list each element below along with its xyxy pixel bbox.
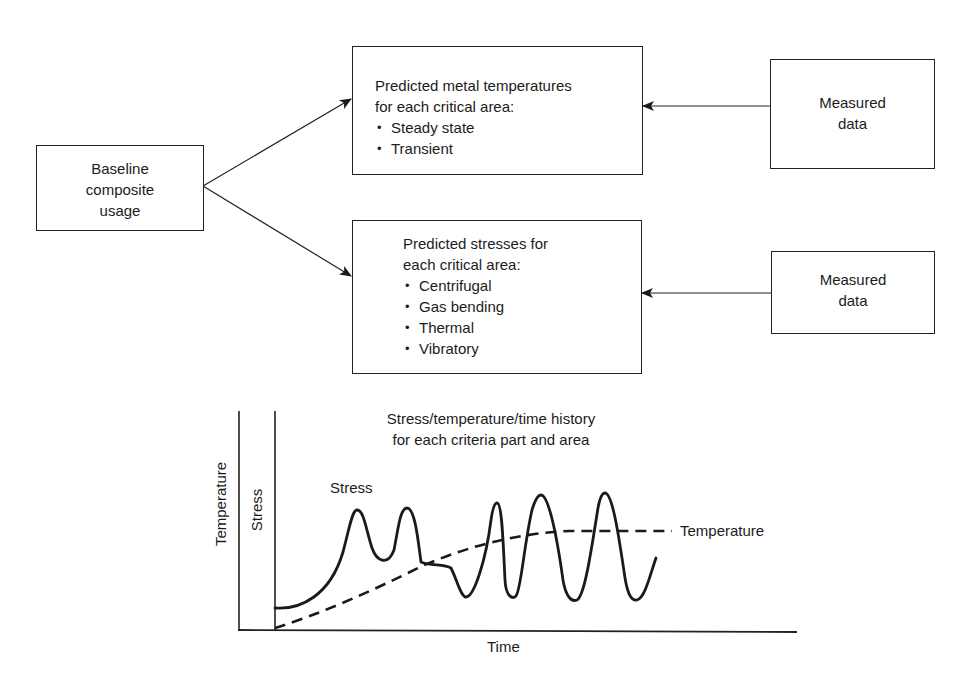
arrow-baseline-to-stress	[203, 186, 351, 276]
stresses-item-thermal: Thermal	[403, 317, 548, 338]
measured-bottom-line-1: Measured	[772, 269, 934, 290]
predicted-temperatures-box: Predicted metal temperatures for each cr…	[352, 46, 643, 175]
temperatures-heading-2: for each critical area:	[375, 96, 572, 117]
time-axis-label: Time	[487, 638, 520, 655]
baseline-line-1: Baseline	[37, 158, 203, 179]
stresses-item-gas-bending: Gas bending	[403, 296, 548, 317]
temperatures-heading-1: Predicted metal temperatures	[375, 75, 572, 96]
stress-axis-label: Stress	[248, 480, 266, 540]
stresses-item-vibratory: Vibratory	[403, 338, 548, 359]
measured-data-box-top: Measured data	[770, 59, 935, 169]
temperature-curve-label: Temperature	[680, 522, 764, 539]
chart-title-line-2: for each criteria part and area	[341, 429, 641, 450]
temperatures-item-steady-state: Steady state	[375, 117, 572, 138]
measured-top-line-1: Measured	[771, 92, 934, 113]
time-axis	[238, 630, 797, 632]
temperatures-item-transient: Transient	[375, 138, 572, 159]
baseline-line-3: usage	[37, 200, 203, 221]
temperatures-list: Steady state Transient	[375, 117, 572, 159]
measured-data-box-bottom: Measured data	[771, 251, 935, 334]
stresses-list: Centrifugal Gas bending Thermal Vibrator…	[403, 275, 548, 359]
stresses-heading-1: Predicted stresses for	[403, 233, 548, 254]
measured-top-line-2: data	[771, 113, 934, 134]
baseline-composite-usage-box: Baseline composite usage	[36, 145, 204, 231]
chart-title: Stress/temperature/time history for each…	[341, 408, 641, 450]
arrow-baseline-to-temperature	[203, 99, 351, 186]
predicted-stresses-box: Predicted stresses for each critical are…	[352, 220, 642, 374]
temperature-curve	[275, 531, 672, 628]
baseline-line-2: composite	[37, 179, 203, 200]
chart-title-line-1: Stress/temperature/time history	[341, 408, 641, 429]
temperature-axis-label: Temperature	[212, 454, 230, 554]
measured-bottom-line-2: data	[772, 290, 934, 311]
stress-curve-label: Stress	[330, 479, 373, 496]
stresses-heading-2: each critical area:	[403, 254, 548, 275]
stresses-item-centrifugal: Centrifugal	[403, 275, 548, 296]
